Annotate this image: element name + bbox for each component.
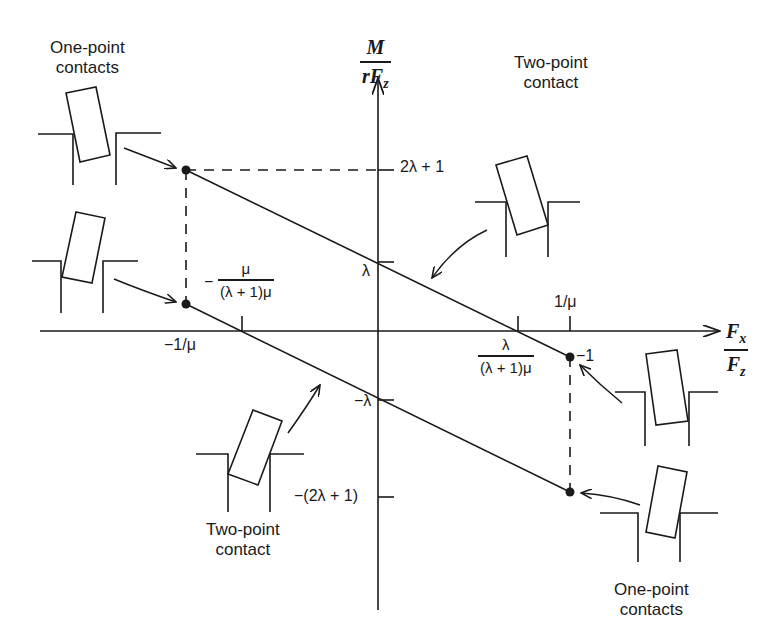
caption-line: contacts: [50, 58, 125, 78]
caption-line: One-point: [614, 580, 689, 600]
x-intercept-negative: μ (λ + 1)μ: [218, 260, 274, 300]
peg-icon-lower-right: [600, 466, 718, 562]
x-axis-label: Fx Fz: [724, 320, 748, 380]
neg-frac-denominator: (λ + 1)μ: [218, 283, 274, 300]
y-axis-label: M rFz: [360, 36, 391, 92]
arrow-lower-right: [581, 493, 640, 505]
fraction-bar: [724, 349, 748, 351]
peg-icon-mid-right: [615, 350, 718, 446]
x-label-denominator: Fz: [725, 353, 748, 380]
caption-bottom-left: Two-point contact: [206, 520, 280, 559]
x-tick-minus-one: −1: [576, 347, 594, 365]
caption-line: contact: [514, 73, 588, 93]
peg-icon-lower-left: [196, 410, 304, 512]
y-tick-neg-lambda: −λ: [354, 392, 371, 410]
y-tick-top: 2λ + 1: [400, 158, 444, 176]
x-tick-neg-inv-mu: −1/μ: [164, 336, 196, 354]
caption-line: One-point: [50, 38, 125, 58]
caption-line: Two-point: [514, 53, 588, 73]
caption-line: contacts: [614, 600, 689, 620]
y-label-numerator: M: [364, 36, 386, 59]
arrow-upper-left: [124, 148, 176, 168]
caption-line: Two-point: [206, 520, 280, 540]
neg-frac-numerator: μ: [239, 260, 252, 277]
arrow-mid-right: [580, 365, 622, 403]
neg-frac-sign: −: [204, 273, 213, 291]
corner-point: [566, 353, 575, 362]
caption-top-right: Two-point contact: [514, 53, 588, 92]
peg-icon-upper-right: [475, 156, 580, 257]
y-label-denominator: rFz: [360, 65, 391, 92]
arrow-mid-left: [114, 279, 176, 302]
diagram-graphics: [0, 0, 778, 638]
caption-top-left: One-point contacts: [50, 38, 125, 77]
diagram-canvas: M rFz Fx Fz 2λ + 1 λ −λ −(2λ + 1) −1/μ 1…: [0, 0, 778, 638]
arrow-lower-left: [288, 385, 320, 433]
pos-frac-numerator: λ: [500, 336, 512, 353]
x-intercept-positive: λ (λ + 1)μ: [478, 336, 534, 376]
fraction-bar: [218, 279, 274, 281]
peg-icon-mid-left: [32, 212, 138, 313]
x-tick-inv-mu: 1/μ: [554, 293, 577, 311]
arrow-upper-right: [432, 230, 487, 278]
corner-point: [182, 300, 191, 309]
fraction-bar: [478, 355, 534, 357]
corner-point: [182, 166, 191, 175]
fraction-bar: [360, 61, 391, 63]
caption-bottom-right: One-point contacts: [614, 580, 689, 619]
x-label-numerator: Fx: [724, 320, 748, 347]
peg-icon-upper-left: [38, 87, 161, 185]
y-tick-bottom: −(2λ + 1): [294, 487, 358, 505]
y-tick-lambda: λ: [362, 262, 370, 280]
caption-line: contact: [206, 540, 280, 560]
corner-point: [566, 488, 575, 497]
pos-frac-denominator: (λ + 1)μ: [478, 359, 534, 376]
